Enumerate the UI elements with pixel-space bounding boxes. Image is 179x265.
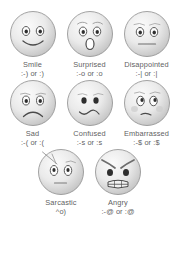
emoticon-cell-confused: Confused :-s or :s bbox=[61, 78, 118, 147]
emoticon-row-1: Smile :-) or :) Surprised :-o or :o bbox=[0, 9, 179, 78]
emoticon-row-3: Sarcastic ^o) Angry :-@ or :@ bbox=[0, 147, 179, 216]
emoticon-code: :-( or :( bbox=[21, 139, 44, 148]
smile-face-icon bbox=[8, 9, 58, 59]
emoticon-code: :-) or :) bbox=[21, 70, 44, 79]
embarrassed-face-icon bbox=[122, 78, 172, 128]
sad-face-icon bbox=[8, 78, 58, 128]
emoticon-code: ^o) bbox=[56, 208, 66, 217]
emoticon-code: :-@ or :@ bbox=[101, 208, 134, 217]
emoticon-row-2: Sad :-( or :( Confused :-s or :s bbox=[0, 78, 179, 147]
emoticon-chart: Smile :-) or :) Surprised :-o or :o bbox=[0, 0, 179, 265]
angry-face-icon bbox=[93, 147, 143, 197]
emoticon-cell-sarcastic: Sarcastic ^o) bbox=[33, 147, 90, 216]
emoticon-code: :-o or :o bbox=[76, 70, 102, 79]
emoticon-cell-surprised: Surprised :-o or :o bbox=[61, 9, 118, 78]
emoticon-cell-angry: Angry :-@ or :@ bbox=[90, 147, 147, 216]
disappointed-face-icon bbox=[122, 9, 172, 59]
emoticon-cell-embarrassed: Embarrassed :-$ or :$ bbox=[118, 78, 175, 147]
emoticon-code: :-| or :| bbox=[136, 70, 158, 79]
surprised-face-icon bbox=[65, 9, 115, 59]
emoticon-code: :-s or :s bbox=[77, 139, 103, 148]
confused-face-icon bbox=[65, 78, 115, 128]
sarcastic-face-icon bbox=[36, 147, 86, 197]
emoticon-cell-smile: Smile :-) or :) bbox=[4, 9, 61, 78]
emoticon-cell-sad: Sad :-( or :( bbox=[4, 78, 61, 147]
emoticon-code: :-$ or :$ bbox=[133, 139, 159, 148]
emoticon-cell-disappointed: Disappointed :-| or :| bbox=[118, 9, 175, 78]
